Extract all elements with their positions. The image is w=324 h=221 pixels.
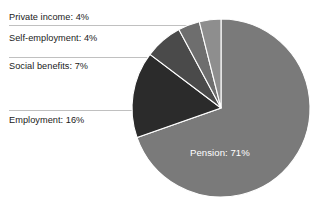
pie-slices [132, 19, 310, 197]
slice-label-pension: Pension: 71% [190, 147, 250, 158]
pie-chart-figure: Private income: 4% Self-employment: 4% S… [0, 0, 324, 221]
slice-label-private-income: Private income: 4% [9, 12, 89, 23]
slice-label-self-employment: Self-employment: 4% [9, 33, 97, 44]
slice-label-social-benefits: Social benefits: 7% [9, 61, 88, 72]
slice-label-employment: Employment: 16% [9, 115, 84, 126]
